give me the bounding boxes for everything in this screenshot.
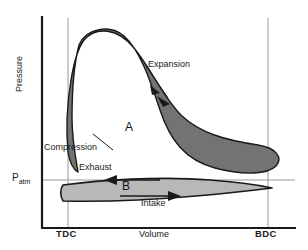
label-compression: Compression bbox=[44, 143, 97, 152]
tick-label-bdc: BDC bbox=[255, 229, 277, 239]
x-axis-label: Volume bbox=[139, 230, 169, 239]
pv-diagram-canvas bbox=[0, 0, 308, 250]
label-expansion: Expansion bbox=[148, 60, 190, 69]
tick-label-patm-symbol: P bbox=[12, 172, 19, 183]
label-intake: Intake bbox=[141, 199, 166, 208]
tick-label-patm: Patm bbox=[12, 172, 30, 185]
region-a-power-loop bbox=[67, 29, 279, 173]
label-region-b: B bbox=[122, 180, 130, 192]
label-exhaust: Exhaust bbox=[79, 163, 112, 172]
pv-diagram-figure: Pressure Patm Volume TDC BDC Expansion C… bbox=[0, 0, 308, 250]
tick-label-patm-subscript: atm bbox=[19, 178, 31, 185]
label-region-a: A bbox=[125, 121, 133, 133]
y-axis-label: Pressure bbox=[14, 32, 24, 92]
region-b-pumping-loop bbox=[61, 178, 272, 201]
tick-label-tdc: TDC bbox=[56, 229, 77, 239]
